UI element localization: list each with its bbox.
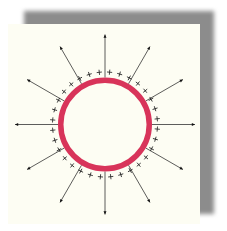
plus-charge-icon	[98, 174, 104, 180]
field-line	[27, 148, 64, 170]
plus-charge-icon	[135, 161, 142, 168]
plus-charge-icon	[86, 71, 93, 78]
field-line	[146, 148, 183, 170]
plus-charge-icon	[108, 174, 114, 180]
arrowhead-icon	[192, 123, 195, 126]
arrowhead-icon	[15, 123, 18, 126]
plus-charge-icon	[118, 171, 125, 178]
charged-shell	[61, 80, 150, 169]
plus-charge-icon	[60, 88, 67, 95]
plus-charge-icon	[134, 80, 141, 87]
plus-charge-icon	[50, 117, 56, 123]
plus-charge-icon	[87, 172, 93, 178]
plus-charge-icon	[61, 155, 68, 162]
field-line	[60, 165, 82, 202]
plus-charge-icon	[152, 105, 159, 112]
plus-charge-icon	[50, 127, 56, 133]
plus-charge-icon	[142, 87, 149, 94]
plus-charge-icon	[154, 126, 160, 132]
field-lines	[15, 35, 195, 215]
plus-charge-icon	[96, 69, 102, 75]
plus-charge-icon	[107, 69, 113, 75]
field-line	[27, 80, 64, 102]
positive-charges	[50, 69, 160, 179]
field-line	[60, 47, 82, 84]
plus-charge-icon	[154, 116, 160, 122]
plus-charge-icon	[116, 71, 122, 77]
plus-charge-icon	[51, 107, 57, 113]
field-line	[146, 80, 183, 102]
plus-charge-icon	[152, 136, 158, 142]
plus-charge-icon	[68, 162, 75, 169]
charged-shell-diagram	[0, 0, 227, 231]
plus-charge-icon	[68, 81, 75, 88]
plus-charge-icon	[142, 154, 149, 161]
diagram-stage	[0, 0, 227, 231]
arrowhead-icon	[104, 211, 107, 214]
plus-charge-icon	[52, 137, 59, 144]
arrowhead-icon	[104, 35, 107, 38]
field-line	[129, 47, 151, 84]
field-line	[129, 165, 151, 202]
